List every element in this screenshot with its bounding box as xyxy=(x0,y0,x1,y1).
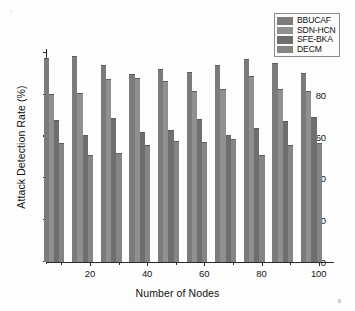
y-axis-tick-label: 60 xyxy=(316,131,326,142)
legend-swatch-icon xyxy=(277,27,293,35)
y-axis-title: Attack Detection Rate (%) xyxy=(15,47,27,247)
legend-swatch-icon xyxy=(277,46,293,54)
x-axis-tick xyxy=(90,262,91,266)
x-axis-tick xyxy=(61,262,62,265)
x-axis-tick xyxy=(119,262,120,265)
x-axis-tick xyxy=(147,262,148,266)
bar xyxy=(202,142,207,262)
bar xyxy=(231,139,236,262)
y-axis-tick-label: 80 xyxy=(316,89,326,100)
bar xyxy=(174,141,179,262)
x-axis-tick xyxy=(233,262,234,265)
x-axis-tick-label: 20 xyxy=(85,268,95,279)
x-axis-tick xyxy=(204,262,205,266)
x-axis-tick xyxy=(319,262,320,266)
bar xyxy=(116,153,121,262)
x-axis-tick-label: 100 xyxy=(311,268,327,279)
x-axis-tick-label: 80 xyxy=(256,268,266,279)
x-axis-tick-label: 40 xyxy=(142,268,152,279)
legend-label: BBUCAF xyxy=(297,16,331,25)
y-axis-tick xyxy=(43,52,47,53)
scan-speck xyxy=(338,299,341,303)
bar xyxy=(259,155,264,262)
x-axis-tick-label: 60 xyxy=(199,268,209,279)
x-axis-tick xyxy=(262,262,263,266)
x-axis-tick xyxy=(176,262,177,265)
x-axis-title: Number of Nodes xyxy=(0,287,355,299)
legend-label: DECM xyxy=(297,45,322,54)
plot-area: 02040608010020406080100 xyxy=(47,53,333,262)
bar xyxy=(288,145,293,262)
bar xyxy=(145,145,150,262)
scan-speck xyxy=(10,10,12,12)
legend-swatch-icon xyxy=(277,17,293,25)
chart-figure: 02040608010020406080100 Attack Detection… xyxy=(0,0,355,311)
legend-item[interactable]: DECM xyxy=(277,45,336,55)
bar xyxy=(59,143,64,262)
chart-legend: BBUCAFSDN-HCNSFE-BKADECM xyxy=(274,13,340,57)
x-axis-tick xyxy=(290,262,291,265)
legend-swatch-icon xyxy=(277,36,293,44)
bar xyxy=(88,155,93,262)
legend-label: SFE-BKA xyxy=(297,35,333,44)
bar xyxy=(317,143,322,262)
